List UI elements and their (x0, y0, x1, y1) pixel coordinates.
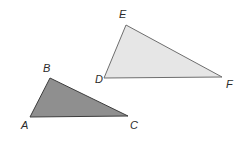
diagram-canvas (0, 0, 241, 141)
vertex-label-e: E (119, 9, 126, 20)
vertex-label-d: D (95, 74, 103, 85)
vertex-label-c: C (130, 120, 138, 131)
vertex-label-b: B (43, 63, 50, 74)
triangle-def-shape (104, 25, 222, 78)
two-triangles-diagram: A B C D E F (0, 0, 241, 141)
vertex-label-a: A (21, 120, 28, 131)
triangle-abc-shape (30, 78, 128, 117)
vertex-label-f: F (226, 79, 233, 90)
